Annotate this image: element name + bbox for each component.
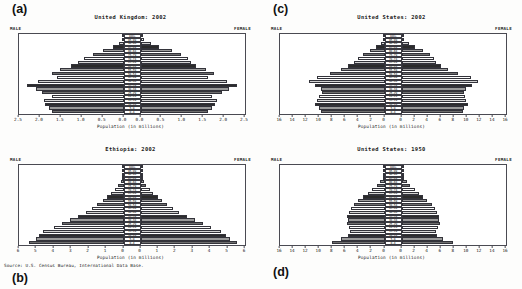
age-group-labels-c: 100+95-9990-9485-8980-8475-7970-7465-696… <box>385 34 402 114</box>
bar-male-40-44 <box>309 80 384 83</box>
age-label-80-84: 80-84 <box>124 49 141 53</box>
age-label-25-29: 25-29 <box>385 91 402 95</box>
male-label-a: MALE <box>10 26 21 31</box>
bar-female-85-89 <box>141 45 160 48</box>
tick-label: 16 <box>502 117 507 122</box>
tick-label: 14 <box>489 117 494 122</box>
bar-female-45-49 <box>402 207 435 210</box>
bar-male-95-99 <box>383 38 385 41</box>
age-label-45-49: 45-49 <box>385 207 402 211</box>
age-label-70-74: 70-74 <box>385 188 402 192</box>
bar-female-25-29 <box>141 222 204 225</box>
bar-female-0-4 <box>141 241 238 244</box>
tick-label: 8 <box>330 117 333 122</box>
male-bars-a <box>19 34 124 114</box>
bar-female-50-54 <box>141 203 168 206</box>
bar-male-75-79 <box>363 53 385 56</box>
age-label-5-9: 5-9 <box>124 237 141 241</box>
age-label-95-99: 95-99 <box>385 169 402 173</box>
bar-female-55-59 <box>402 199 428 202</box>
female-label-d: FEMALE <box>495 157 512 162</box>
age-label-25-29: 25-29 <box>385 222 402 226</box>
bar-female-100+ <box>141 34 143 37</box>
age-label-85-89: 85-89 <box>124 177 141 181</box>
bar-female-10-14 <box>141 234 226 237</box>
tick-label: 16 <box>276 248 281 253</box>
bar-male-55-59 <box>103 199 124 202</box>
bar-female-80-84 <box>402 49 424 52</box>
bar-male-5-9 <box>36 237 124 240</box>
bar-female-70-74 <box>402 57 434 60</box>
bar-female-45-49 <box>141 207 173 210</box>
female-label-a: FEMALE <box>234 26 251 31</box>
tick-label: 1.5 <box>56 117 64 122</box>
age-label-80-84: 80-84 <box>385 180 402 184</box>
tick-label: 1.0 <box>77 117 85 122</box>
tick-label: 8 <box>451 117 454 122</box>
bar-male-65-69 <box>354 61 385 64</box>
bar-male-25-29 <box>62 222 124 225</box>
bar-female-15-19 <box>402 230 437 233</box>
tick-label: 2 <box>173 248 176 253</box>
age-label-15-19: 15-19 <box>124 99 141 103</box>
bar-male-35-39 <box>78 215 123 218</box>
bar-female-60-64 <box>141 195 158 198</box>
bar-female-5-9 <box>141 106 212 109</box>
age-label-60-64: 60-64 <box>385 196 402 200</box>
age-label-80-84: 80-84 <box>124 180 141 184</box>
age-label-10-14: 10-14 <box>124 103 141 107</box>
bar-male-55-59 <box>341 68 385 71</box>
bar-female-75-79 <box>402 184 410 187</box>
age-label-5-9: 5-9 <box>385 237 402 241</box>
bar-male-80-84 <box>380 180 385 183</box>
plot-area-b: 100+95-9990-9485-8980-8475-7970-7465-696… <box>18 164 246 246</box>
tick-label: 0.5 <box>98 117 106 122</box>
x-axis-c: 16141210864200246810121416 <box>279 115 507 124</box>
bar-female-65-69 <box>402 192 420 195</box>
bar-female-75-79 <box>402 53 430 56</box>
bar-female-80-84 <box>141 49 173 52</box>
panel-letter-d: (d) <box>273 265 289 279</box>
tick-label: 1.5 <box>198 117 206 122</box>
bar-female-70-74 <box>402 188 415 191</box>
bar-male-15-19 <box>43 230 123 233</box>
tick-label: 12 <box>303 248 308 253</box>
bar-female-15-19 <box>402 99 467 102</box>
bar-male-70-74 <box>115 188 123 191</box>
age-group-labels-d: 100+95-9990-9485-8980-8475-7970-7465-696… <box>385 165 402 245</box>
age-label-55-59: 55-59 <box>385 68 402 72</box>
age-label-70-74: 70-74 <box>124 57 141 61</box>
tick-label: 4 <box>52 248 55 253</box>
age-label-45-49: 45-49 <box>385 76 402 80</box>
tick-label: 10 <box>316 117 321 122</box>
x-axis-b: 65432100123456 <box>18 246 246 255</box>
age-label-70-74: 70-74 <box>385 57 402 61</box>
bar-male-50-54 <box>52 72 124 75</box>
bar-male-35-39 <box>315 84 384 87</box>
age-label-20-24: 20-24 <box>385 226 402 230</box>
female-bars-c <box>402 34 507 114</box>
bar-male-90-94 <box>383 173 385 176</box>
bar-female-70-74 <box>141 188 150 191</box>
bar-female-65-69 <box>402 61 437 64</box>
age-label-5-9: 5-9 <box>124 106 141 110</box>
tick-label: 10 <box>463 248 468 253</box>
bar-female-20-24 <box>141 95 212 98</box>
age-label-10-14: 10-14 <box>385 103 402 107</box>
male-bars-d <box>280 165 385 245</box>
bar-male-25-29 <box>347 222 384 225</box>
tick-label: 0 <box>382 248 385 253</box>
bar-female-50-54 <box>402 72 459 75</box>
female-bars-d <box>402 165 507 245</box>
bar-male-5-9 <box>319 106 384 109</box>
tick-label: 6 <box>343 117 346 122</box>
bar-female-30-34 <box>402 87 467 90</box>
age-label-45-49: 45-49 <box>124 207 141 211</box>
bar-female-85-89 <box>402 176 404 179</box>
tick-label: 6 <box>243 248 246 253</box>
bar-female-15-19 <box>141 99 217 102</box>
age-label-0-4: 0-4 <box>385 110 402 114</box>
tick-label: 6 <box>343 248 346 253</box>
bar-female-80-84 <box>141 180 144 183</box>
bar-male-40-44 <box>86 211 123 214</box>
